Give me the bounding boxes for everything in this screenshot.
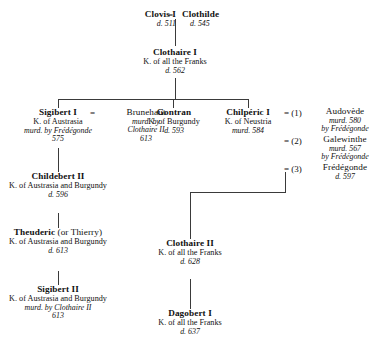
connector-fredegonde-drop bbox=[285, 172, 286, 192]
node-clothaire-ii: Clothaire II K. of all the Franks d. 628 bbox=[130, 239, 250, 266]
node-date: murd. 584 bbox=[213, 127, 283, 136]
node-date: 575 bbox=[4, 135, 112, 144]
marriage-symbol-sigibert: = bbox=[90, 108, 95, 118]
marriage-symbol-2: = (2) bbox=[284, 136, 302, 146]
node-name-main: Theuderic bbox=[14, 227, 55, 237]
genealogy-chart: Clovis I d. 511 = Clothilde d. 545 Cloth… bbox=[0, 0, 382, 362]
node-date: d. 545 bbox=[182, 20, 244, 29]
node-fredegonde: Frédégonde d. 597 bbox=[310, 163, 380, 181]
node-audovede: Audovède murd. 580 by Frédégonde bbox=[310, 107, 380, 134]
connector-clothaire-drop bbox=[175, 78, 176, 99]
node-sigibert-ii: Sigibert II K. of Austrasia and Burgundy… bbox=[4, 285, 112, 321]
node-date: d. 593 bbox=[140, 127, 208, 136]
node-date: d. 597 bbox=[310, 173, 380, 182]
node-date: d. 562 bbox=[115, 67, 235, 76]
node-date: by Frédégonde bbox=[310, 153, 380, 162]
node-clovis-i: Clovis I d. 511 bbox=[114, 10, 176, 28]
connector-clovis-to-clothaire bbox=[175, 19, 176, 46]
node-name-alternate: (or Thierry) bbox=[55, 227, 102, 237]
node-date: 613 bbox=[4, 312, 112, 321]
node-date: d. 628 bbox=[130, 258, 250, 267]
node-date: d. 637 bbox=[130, 328, 250, 337]
sibling-bar bbox=[58, 99, 249, 100]
connector-clothaire-ii-to-dagobert bbox=[190, 279, 191, 309]
marriage-symbol-1: = (1) bbox=[284, 108, 302, 118]
marriage-symbol-clovis: = bbox=[168, 10, 173, 20]
node-date: d. 596 bbox=[6, 191, 110, 200]
node-date: by Frédégonde bbox=[310, 125, 380, 134]
node-clothilde: Clothilde d. 545 bbox=[182, 10, 244, 28]
connector-theuderic-to-sigibert-ii bbox=[58, 271, 59, 285]
node-galewinthe: Galewinthe murd. 567 by Frédégonde bbox=[310, 135, 380, 162]
node-childebert-ii: Childebert II K. of Austrasia and Burgun… bbox=[6, 172, 110, 199]
connector-childebert-to-theuderic bbox=[58, 213, 59, 228]
marriage-symbol-3: = (3) bbox=[284, 164, 302, 174]
node-sigibert-i: Sigibert I K. of Austrasia murd. by Fréd… bbox=[4, 108, 112, 144]
node-clothaire-i: Clothaire I K. of all the Franks d. 562 bbox=[115, 48, 235, 75]
node-gontran: Gontran K. of Burgundy d. 593 bbox=[140, 108, 208, 135]
node-dagobert-i: Dagobert I K. of all the Franks d. 637 bbox=[130, 309, 250, 336]
node-date: d. 613 bbox=[0, 247, 116, 256]
node-chilperic-i: Chilpéric I K. of Neustria murd. 584 bbox=[213, 108, 283, 135]
connector-sigibert-to-childebert bbox=[58, 148, 59, 172]
node-date: d. 511 bbox=[114, 20, 176, 29]
connector-fredegonde-across bbox=[190, 192, 286, 193]
node-theuderic: Theuderic (or Thierry) K. of Austrasia a… bbox=[0, 228, 116, 255]
node-date: 613 bbox=[110, 135, 182, 144]
connector-to-clothaire-ii bbox=[190, 192, 191, 239]
